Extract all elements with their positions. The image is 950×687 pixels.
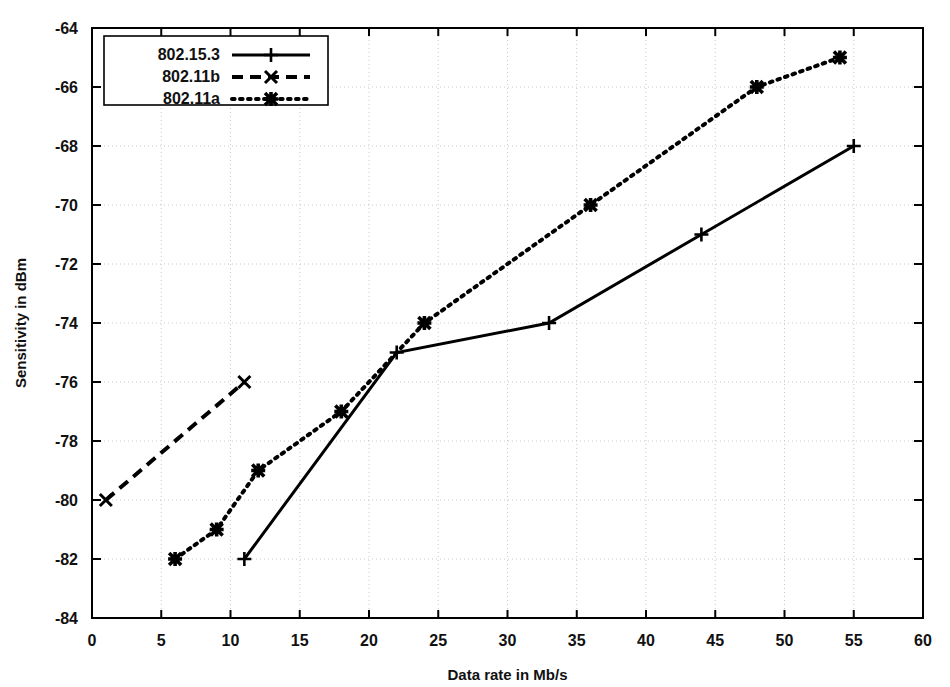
- data-point-marker-core: [753, 84, 760, 91]
- chart-figure: 051015202530354045505560-84-82-80-78-76-…: [0, 0, 950, 687]
- legend-label-802-15-3: 802.15.3: [158, 46, 220, 63]
- x-axis-tick-label: 5: [157, 632, 166, 649]
- x-axis-tick-label: 10: [222, 632, 240, 649]
- data-point-marker-core: [213, 526, 220, 533]
- legend-label-802-11a: 802.11a: [163, 90, 220, 107]
- figure-caption-clipped: [0, 677, 950, 687]
- x-axis-tick-label: 60: [914, 632, 932, 649]
- y-axis-tick-label: -78: [55, 433, 78, 450]
- x-axis-tick-label: 45: [706, 632, 724, 649]
- data-point-marker-core: [255, 467, 262, 474]
- x-axis-tick-label: 55: [845, 632, 863, 649]
- data-point-marker-core: [836, 54, 843, 61]
- x-axis-tick-label: 15: [291, 632, 309, 649]
- y-axis-tick-label: -84: [55, 610, 78, 627]
- y-axis-tick-label: -70: [55, 197, 78, 214]
- x-axis-tick-label: 0: [88, 632, 97, 649]
- data-point-marker-core: [172, 556, 179, 563]
- data-point-marker-core: [421, 320, 428, 327]
- chart-plot-area: 051015202530354045505560-84-82-80-78-76-…: [0, 0, 950, 687]
- legend-sample-marker-core: [268, 96, 275, 103]
- x-axis-tick-label: 30: [499, 632, 517, 649]
- legend: 802.15.3802.11b802.11a: [104, 36, 328, 107]
- y-axis-tick-label: -66: [55, 79, 78, 96]
- x-axis-tick-label: 20: [360, 632, 378, 649]
- x-axis-tick-label: 35: [568, 632, 586, 649]
- y-axis-tick-label: -72: [55, 256, 78, 273]
- x-axis-tick-label: 50: [776, 632, 794, 649]
- y-axis-tick-label: -82: [55, 551, 78, 568]
- y-axis-title: Sensitivity in dBm: [12, 258, 29, 388]
- data-point-marker-core: [587, 202, 594, 209]
- data-point-marker-core: [338, 408, 345, 415]
- x-axis-tick-label: 40: [637, 632, 655, 649]
- y-axis-tick-label: -80: [55, 492, 78, 509]
- legend-label-802-11b: 802.11b: [162, 68, 220, 85]
- y-axis-tick-label: -74: [55, 315, 78, 332]
- y-axis-tick-label: -64: [55, 20, 78, 37]
- y-axis-tick-label: -76: [55, 374, 78, 391]
- y-axis-tick-label: -68: [55, 138, 78, 155]
- x-axis-tick-label: 25: [429, 632, 447, 649]
